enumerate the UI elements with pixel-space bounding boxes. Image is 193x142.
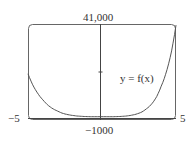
- curve-label: y = f(x): [120, 72, 154, 84]
- y-max-label: 41,000: [83, 11, 113, 23]
- y-min-label: −1000: [85, 124, 113, 136]
- x-max-label: 5: [180, 112, 186, 124]
- x-min-label: −5: [8, 112, 20, 124]
- function-curve: [28, 25, 176, 117]
